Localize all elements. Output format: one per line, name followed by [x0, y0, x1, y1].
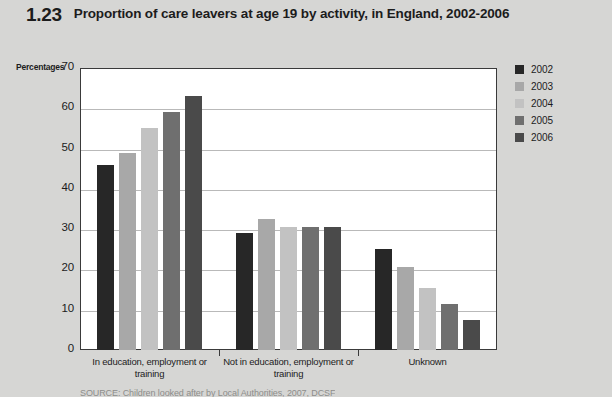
page-title: Proportion of care leavers at age 19 by … [74, 4, 510, 23]
gridline [81, 230, 496, 231]
legend-item-2006: 2006 [515, 130, 553, 144]
figure-title-block: 1.23 Proportion of care leavers at age 1… [26, 4, 586, 25]
figure-number: 1.23 [26, 4, 74, 25]
y-axis-tick-label: 20 [38, 261, 74, 273]
x-axis-tick [219, 350, 220, 356]
gridline [81, 109, 496, 110]
gridline [81, 311, 496, 312]
source-note: SOURCE: Children looked after by Local A… [80, 388, 335, 397]
y-axis-tick-label: 40 [38, 181, 74, 193]
x-axis-category-label: Not in education, employment or training [219, 356, 358, 379]
gridline [81, 190, 496, 191]
legend-label: 2006 [531, 132, 553, 143]
legend-swatch-icon [515, 116, 524, 125]
y-axis-tick-label: 60 [38, 100, 74, 112]
legend-label: 2002 [531, 64, 553, 75]
legend-label: 2005 [531, 115, 553, 126]
legend-item-2004: 2004 [515, 96, 553, 110]
legend-item-2003: 2003 [515, 79, 553, 93]
chart-plot-area [80, 68, 497, 350]
legend-swatch-icon [515, 82, 524, 91]
x-axis-category-label: Unknown [358, 356, 497, 368]
legend-item-2002: 2002 [515, 62, 553, 76]
y-axis-tick-label: 70 [38, 60, 74, 72]
x-axis-tick [358, 350, 359, 356]
gridline [81, 270, 496, 271]
y-axis-tick-label: 50 [38, 141, 74, 153]
chart-legend: 20022003200420052006 [515, 62, 553, 147]
y-axis-tick-label: 10 [38, 302, 74, 314]
legend-swatch-icon [515, 99, 524, 108]
y-axis-tick-label: 30 [38, 221, 74, 233]
x-axis-category-label: In education, employment or training [80, 356, 219, 379]
legend-swatch-icon [515, 133, 524, 142]
legend-label: 2003 [531, 81, 553, 92]
legend-swatch-icon [515, 65, 524, 74]
legend-label: 2004 [531, 98, 553, 109]
legend-item-2005: 2005 [515, 113, 553, 127]
y-axis-tick-label: 0 [38, 342, 74, 354]
gridline [81, 150, 496, 151]
